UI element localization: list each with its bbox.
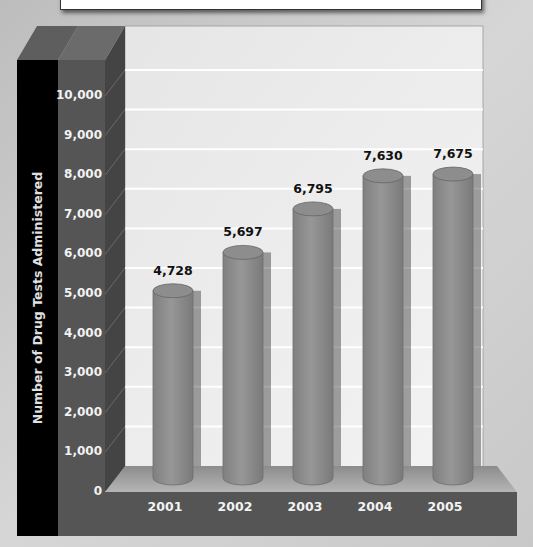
x-category-label: 2004: [345, 499, 405, 514]
value-label: 7,675: [418, 146, 488, 161]
y-tick-label: 3,000: [56, 365, 102, 379]
y-tick-label: 4,000: [56, 326, 102, 340]
value-label: 6,795: [278, 181, 348, 196]
bar-2004: [363, 169, 411, 485]
y-tick-label: 7,000: [56, 207, 102, 221]
y-tick-label: 10,000: [56, 88, 102, 102]
y-tick-label: 5,000: [56, 286, 102, 300]
x-category-label: 2001: [135, 499, 195, 514]
value-label: 5,697: [208, 224, 278, 239]
y-tick-label: 8,000: [56, 167, 102, 181]
bar-2003: [293, 202, 341, 485]
chart-frame: [0, 0, 533, 547]
value-label: 4,728: [138, 263, 208, 278]
bar-2001: [153, 284, 201, 485]
x-category-label: 2003: [275, 499, 335, 514]
bar-2005: [433, 167, 481, 485]
y-tick-label: 2,000: [56, 405, 102, 419]
x-category-label: 2002: [205, 499, 265, 514]
x-category-label: 2005: [415, 499, 475, 514]
bar-2002: [223, 245, 271, 485]
y-axis-label: Number of Drug Tests Administered: [30, 172, 45, 425]
value-label: 7,630: [348, 148, 418, 163]
y-tick-label: 9,000: [56, 128, 102, 142]
y-tick-label: 6,000: [56, 246, 102, 260]
y-tick-label: 1,000: [56, 444, 102, 458]
y-tick-label: 0: [56, 484, 102, 498]
